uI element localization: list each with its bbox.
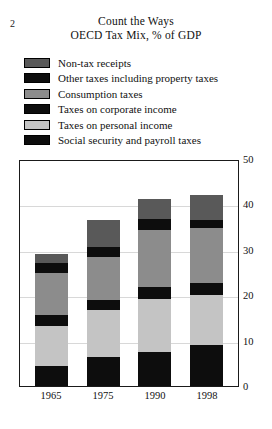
bar-slot xyxy=(181,161,233,386)
legend-item: Consumption taxes xyxy=(24,86,264,102)
legend-item: Other taxes including property taxes xyxy=(24,71,264,87)
bar-segment xyxy=(87,220,120,247)
legend-label: Taxes on personal income xyxy=(58,119,172,131)
bar-segment xyxy=(35,263,68,272)
plot-frame xyxy=(19,160,239,387)
bar-segment xyxy=(35,326,68,367)
bar-segment xyxy=(87,247,120,257)
legend-label: Other taxes including property taxes xyxy=(58,72,218,84)
bar-slot xyxy=(26,161,78,386)
y-axis-tick-label: 30 xyxy=(243,246,254,256)
bar-slot xyxy=(78,161,130,386)
bar-segment xyxy=(190,195,223,220)
chart-plot-area xyxy=(19,160,239,387)
bar-segment xyxy=(35,254,68,263)
legend-swatch-corporate_income xyxy=(24,104,50,114)
y-axis-tick-label: 0 xyxy=(243,382,248,392)
stacked-bar[interactable] xyxy=(138,199,171,386)
page-title: Count the Ways xyxy=(0,14,272,28)
bar-segment xyxy=(190,295,223,345)
stacked-bar[interactable] xyxy=(35,254,68,386)
bar-segment xyxy=(138,299,171,351)
stacked-bar[interactable] xyxy=(190,195,223,386)
x-axis-tick-label: 1998 xyxy=(181,390,233,401)
bar-segment xyxy=(138,287,171,300)
legend-item: Non-tax receipts xyxy=(24,55,264,71)
legend-label: Taxes on corporate income xyxy=(58,103,177,115)
bar-segment xyxy=(190,345,223,386)
x-axis-tick-label: 1975 xyxy=(77,390,129,401)
bar-segment xyxy=(87,310,120,357)
x-axis: 1965197519901998 xyxy=(19,390,239,401)
bar-slot xyxy=(129,161,181,386)
bar-segment xyxy=(35,273,68,316)
bar-segment xyxy=(190,220,223,227)
bar-segment xyxy=(138,352,171,387)
bar-segment xyxy=(87,300,120,310)
legend-swatch-other_taxes xyxy=(24,73,50,83)
legend-label: Non-tax receipts xyxy=(58,57,131,69)
bar-group xyxy=(20,161,238,386)
bar-segment xyxy=(35,366,68,386)
bar-segment xyxy=(138,230,171,287)
bar-segment xyxy=(87,357,120,387)
bar-segment xyxy=(35,315,68,325)
x-axis-tick-label: 1965 xyxy=(25,390,77,401)
legend-swatch-consumption_taxes xyxy=(24,89,50,99)
legend-swatch-social_security xyxy=(24,135,50,145)
legend-label: Consumption taxes xyxy=(58,88,143,100)
chart-legend: Non-tax receiptsOther taxes including pr… xyxy=(24,55,264,148)
bar-segment xyxy=(190,228,223,284)
page-subtitle: OECD Tax Mix, % of GDP xyxy=(0,28,272,42)
legend-swatch-personal_income xyxy=(24,120,50,130)
legend-label: Social security and payroll taxes xyxy=(58,134,201,146)
bar-segment xyxy=(138,199,171,219)
x-axis-tick-label: 1990 xyxy=(129,390,181,401)
bar-segment xyxy=(190,283,223,295)
y-axis-tick-label: 20 xyxy=(243,291,254,301)
legend-item: Social security and payroll taxes xyxy=(24,133,264,149)
bar-segment xyxy=(87,257,120,300)
y-axis-tick-label: 40 xyxy=(243,200,254,210)
legend-item: Taxes on personal income xyxy=(24,117,264,133)
y-axis: 01020304050 xyxy=(243,160,271,387)
stacked-bar[interactable] xyxy=(87,220,120,386)
bar-segment xyxy=(138,219,171,229)
legend-swatch-non_tax_receipts xyxy=(24,58,50,68)
y-axis-tick-label: 50 xyxy=(243,155,254,165)
chart-title-block: Count the Ways OECD Tax Mix, % of GDP xyxy=(0,14,272,42)
legend-item: Taxes on corporate income xyxy=(24,102,264,118)
y-axis-tick-label: 10 xyxy=(243,337,254,347)
